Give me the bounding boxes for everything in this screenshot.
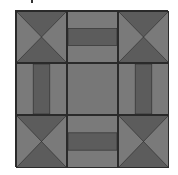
hourglass-icon	[17, 12, 66, 62]
cell-hourglass-top-right	[118, 11, 169, 63]
plain-square-icon	[68, 64, 117, 114]
cell-band-bottom	[67, 115, 118, 168]
cell-band-right	[118, 63, 169, 115]
cell-hourglass-bottom-left	[16, 115, 67, 168]
horizontal-band-icon	[68, 116, 117, 167]
cell-band-left	[16, 63, 67, 115]
quilt-block	[15, 10, 168, 167]
horizontal-band-icon	[68, 12, 117, 62]
cell-hourglass-bottom-right	[118, 115, 169, 168]
vertical-band-icon	[119, 64, 168, 114]
cell-hourglass-top-left	[16, 11, 67, 63]
hourglass-icon	[119, 116, 168, 167]
hourglass-icon	[119, 12, 168, 62]
cell-band-top	[67, 11, 118, 63]
top-edge-mark	[31, 0, 33, 3]
hourglass-icon	[17, 116, 66, 167]
vertical-band-icon	[17, 64, 66, 114]
cell-center	[67, 63, 118, 115]
